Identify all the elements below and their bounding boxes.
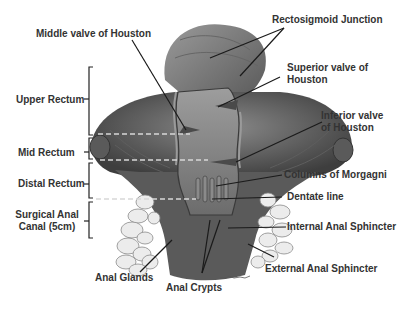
label-superior-valve-of-houston: Superior valve of Houston <box>287 62 377 86</box>
label-upper-rectum: Upper Rectum <box>16 94 84 106</box>
label-inferior-valve-of-houston: Inferior valve of Houston <box>321 110 393 134</box>
label-distal-rectum: Distal Rectum <box>18 178 85 190</box>
label-internal-anal-sphincter: Internal Anal Sphincter <box>287 221 396 233</box>
label-rectosigmoid-junction: Rectosigmoid Junction <box>272 14 383 26</box>
label-surgical-anal-canal: Surgical Anal Canal (5cm) <box>12 209 82 233</box>
rectal-lumen <box>174 88 241 215</box>
label-columns-of-morgagni: Columns of Morgagni <box>284 169 387 181</box>
label-anal-crypts: Anal Crypts <box>166 282 222 294</box>
label-external-anal-sphincter: External Anal Sphincter <box>265 263 377 275</box>
label-dentate-line: Dentate line <box>287 191 344 203</box>
label-mid-rectum: Mid Rectum <box>18 147 75 159</box>
label-middle-valve-of-houston: Middle valve of Houston <box>36 28 151 40</box>
label-anal-glands: Anal Glands <box>95 272 153 284</box>
rectum-anatomy-diagram: Upper Rectum Mid Rectum Distal Rectum Su… <box>0 0 403 309</box>
